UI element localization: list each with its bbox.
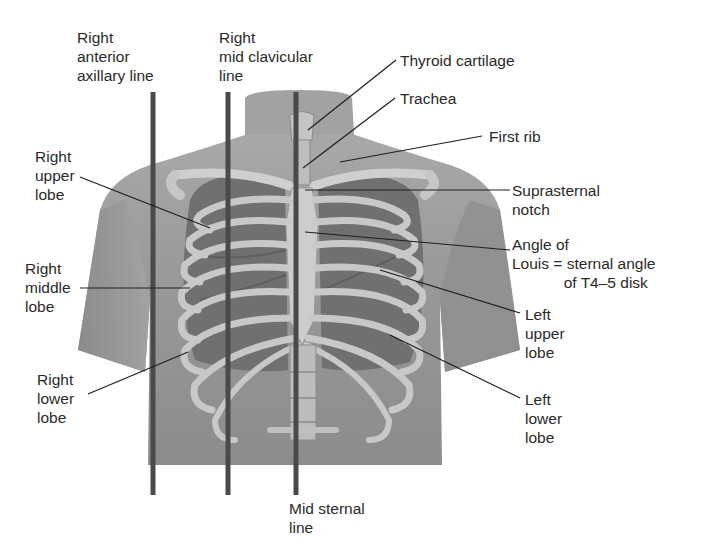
label-left-lower-lobe: Left lower lobe (525, 390, 562, 447)
label-mid-sternal-line: Mid sternal line (289, 499, 365, 537)
label-right-mid-clavicular-line: Right mid clavicular line (219, 28, 313, 85)
label-thyroid-cartilage: Thyroid cartilage (400, 51, 515, 70)
label-right-anterior-axillary-line: Right anterior axillary line (77, 28, 154, 85)
label-suprasternal-notch: Suprasternal notch (512, 181, 600, 219)
label-trachea: Trachea (400, 89, 456, 108)
label-first-rib: First rib (489, 127, 541, 146)
label-angle-of-louis: Angle of Louis = sternal angle of T4–5 d… (512, 235, 655, 292)
label-left-upper-lobe: Left upper lobe (525, 305, 565, 362)
label-right-upper-lobe: Right upper lobe (35, 147, 75, 204)
label-right-lower-lobe: Right lower lobe (37, 370, 74, 427)
label-right-middle-lobe: Right middle lobe (25, 259, 71, 316)
